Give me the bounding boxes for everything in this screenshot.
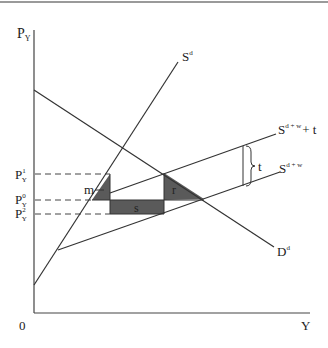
area-s-label: s [134, 201, 139, 215]
area-r-label: r [172, 183, 176, 197]
x-axis-label: Y [301, 318, 311, 333]
total-supply-tariff-label: Sd + w+ t [278, 122, 317, 137]
demand-label: Dd [277, 244, 290, 259]
price-label-p2: P2Y [15, 206, 27, 223]
origin-label: 0 [19, 318, 26, 333]
tariff-brace-icon [246, 146, 255, 186]
price-label-p1: P1Y [15, 167, 27, 184]
area-m-label: m [84, 182, 94, 197]
demand-curve [34, 90, 274, 247]
area-m-triangle [92, 174, 110, 200]
area-r-triangle [164, 173, 204, 200]
tariff-brace-label: t [258, 159, 262, 174]
y-axis-label: PY [17, 26, 31, 43]
domestic-supply-label: Sd [182, 49, 193, 64]
total-supply-label: Sd + w [279, 161, 303, 176]
supply-demand-diagram: PY 0 Y P1Y P0Y P2Y Sd Sd + w+ t Sd + w D… [0, 0, 328, 348]
